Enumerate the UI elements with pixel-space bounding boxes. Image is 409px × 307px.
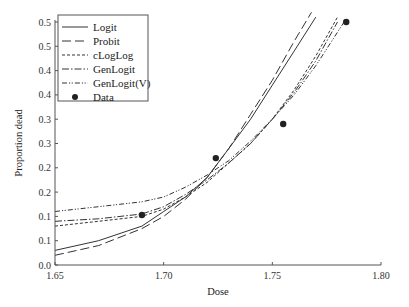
- y-tick-label: 0.2: [39, 162, 52, 173]
- legend-label: GenLogit(V): [93, 77, 151, 90]
- y-tick-label: 0.1: [39, 211, 52, 222]
- y-tick-label: 0.3: [39, 114, 52, 125]
- y-tick-label: 0.0: [39, 260, 52, 271]
- legend-marker-icon: [72, 94, 78, 100]
- dose-response-chart: 1.651.701.751.80 0.00.10.10.20.20.30.30.…: [0, 0, 409, 307]
- data-point: [280, 121, 286, 127]
- x-axis-label: Dose: [207, 286, 229, 297]
- legend-label: cLogLog: [93, 49, 134, 61]
- y-tick-label: 0.4: [39, 89, 52, 100]
- y-tick-label: 0.2: [39, 187, 52, 198]
- y-tick-label: 0.3: [39, 138, 52, 149]
- x-tick-label: 1.65: [46, 270, 64, 281]
- data-point: [343, 19, 349, 25]
- legend-label: Logit: [93, 21, 117, 33]
- y-axis-label: Proportion dead: [13, 109, 24, 177]
- y-tick-label: 0.5: [39, 41, 52, 52]
- legend-label: Data: [93, 91, 114, 103]
- y-tick-label: 0.5: [39, 17, 52, 28]
- x-tick-label: 1.70: [155, 270, 173, 281]
- legend: LogitProbitcLogLogGenLogitGenLogit(V)Dat…: [58, 15, 151, 103]
- x-tick-label: 1.80: [372, 270, 390, 281]
- legend-label: Probit: [93, 35, 120, 47]
- data-point: [213, 155, 219, 161]
- data-point: [139, 212, 145, 218]
- legend-label: GenLogit: [93, 63, 135, 75]
- x-tick-label: 1.75: [264, 270, 282, 281]
- y-tick-label: 0.4: [39, 65, 52, 76]
- y-tick-label: 0.1: [39, 235, 52, 246]
